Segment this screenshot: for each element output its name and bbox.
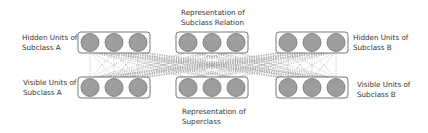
unit-node bbox=[327, 34, 345, 52]
unit-node bbox=[203, 79, 221, 97]
unit-node bbox=[105, 34, 123, 52]
connection-edges bbox=[90, 52, 336, 79]
label-visible-b: Visible Units of Subclass B bbox=[357, 80, 410, 100]
label-superclass: Representation of Superclass bbox=[182, 107, 246, 127]
unit-node bbox=[227, 79, 245, 97]
unit-node bbox=[105, 79, 123, 97]
unit-node bbox=[327, 79, 345, 97]
unit-node bbox=[81, 34, 99, 52]
label-hidden-a: Hidden Units of Subclass A bbox=[22, 33, 77, 53]
unit-node bbox=[179, 79, 197, 97]
unit-node bbox=[81, 79, 99, 97]
unit-node bbox=[129, 34, 147, 52]
label-relation: Representation of Subclass Relation bbox=[181, 8, 245, 28]
unit-node bbox=[303, 34, 321, 52]
label-visible-a: Visible Units of Subclass A bbox=[23, 78, 76, 98]
unit-node bbox=[129, 79, 147, 97]
label-hidden-b: Hidden Units of Subclass B bbox=[353, 33, 408, 53]
unit-node bbox=[303, 79, 321, 97]
unit-node bbox=[279, 79, 297, 97]
unit-node bbox=[203, 34, 221, 52]
unit-node bbox=[227, 34, 245, 52]
unit-node bbox=[179, 34, 197, 52]
unit-node bbox=[279, 34, 297, 52]
